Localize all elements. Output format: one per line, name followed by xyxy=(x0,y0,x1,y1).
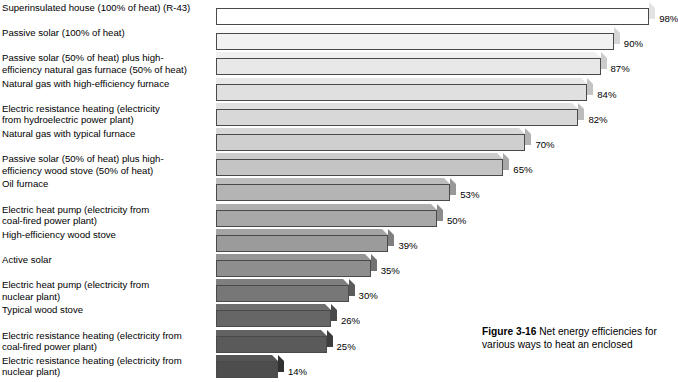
bar-front-face xyxy=(216,159,503,176)
bar-category-label: Electric heat pump (electricity from coa… xyxy=(2,204,214,227)
bar-side-face xyxy=(587,78,593,95)
bar-category-label: Superinsulated house (100% of heat) (R-4… xyxy=(2,2,214,13)
bar-value-label: 35% xyxy=(381,265,400,276)
bar-side-face xyxy=(578,103,584,120)
chart-row: High-efficiency wood stove39% xyxy=(0,229,672,255)
bar-value-label: 53% xyxy=(460,189,479,200)
bar-side-face xyxy=(450,178,456,195)
chart-row: Oil furnace53% xyxy=(0,178,672,204)
bar-front-face xyxy=(216,33,614,50)
bar-category-label: Typical wood stove xyxy=(2,304,214,315)
bar-front-face xyxy=(216,134,525,151)
bar-category-label: Passive solar (50% of heat) plus high- e… xyxy=(2,153,214,176)
bar-side-face xyxy=(327,330,333,347)
bar-3d xyxy=(216,27,620,53)
chart-row: Passive solar (50% of heat) plus high- e… xyxy=(0,153,672,179)
bar-front-face xyxy=(216,8,649,25)
chart-row: Electric heat pump (electricity from nuc… xyxy=(0,279,672,305)
bar-value-label: 98% xyxy=(659,13,678,24)
chart-row: Electric resistance heating (electricity… xyxy=(0,103,672,129)
bar-value-label: 50% xyxy=(447,215,466,226)
bar-front-face xyxy=(216,184,450,201)
bar-front-face xyxy=(216,109,578,126)
bar-3d xyxy=(216,304,337,330)
bar-front-face xyxy=(216,361,278,378)
bar-side-face xyxy=(649,2,655,19)
bar-side-face xyxy=(371,254,377,271)
bar-side-face xyxy=(349,279,355,296)
bar-3d xyxy=(216,330,333,356)
bar-category-label: Electric heat pump (electricity from nuc… xyxy=(2,279,214,302)
bar-value-label: 70% xyxy=(535,139,554,150)
bar-3d xyxy=(216,178,456,204)
bar-value-label: 30% xyxy=(359,290,378,301)
bar-3d xyxy=(216,78,593,104)
bar-category-label: High-efficiency wood stove xyxy=(2,229,214,240)
bar-front-face xyxy=(216,285,349,302)
chart-row: Natural gas with high-efficiency furnace… xyxy=(0,78,672,104)
bar-category-label: Passive solar (50% of heat) plus high- e… xyxy=(2,52,214,75)
bar-3d xyxy=(216,153,509,179)
bar-category-label: Natural gas with high-efficiency furnace xyxy=(2,78,214,89)
bar-front-face xyxy=(216,260,371,277)
bar-category-label: Electric resistance heating (electricity… xyxy=(2,103,214,126)
bar-value-label: 26% xyxy=(341,315,360,326)
chart-row: Electric resistance heating (electricity… xyxy=(0,355,672,381)
bar-side-face xyxy=(614,27,620,44)
bar-3d xyxy=(216,229,394,255)
bar-front-face xyxy=(216,235,388,252)
bar-category-label: Electric resistance heating (electricity… xyxy=(2,355,214,378)
bar-side-face xyxy=(388,229,394,246)
bar-3d xyxy=(216,355,284,381)
chart-row: Passive solar (50% of heat) plus high- e… xyxy=(0,52,672,78)
bar-side-face xyxy=(437,204,443,221)
bar-category-label: Natural gas with typical furnace xyxy=(2,128,214,139)
bar-side-face xyxy=(331,304,337,321)
bar-front-face xyxy=(216,310,331,327)
bar-3d xyxy=(216,279,355,305)
bar-3d xyxy=(216,128,531,154)
bar-front-face xyxy=(216,336,327,353)
chart-row: Active solar35% xyxy=(0,254,672,280)
bar-side-face xyxy=(278,355,284,372)
bar-value-label: 90% xyxy=(624,38,643,49)
bar-front-face xyxy=(216,84,587,101)
bar-front-face xyxy=(216,58,601,75)
bar-3d xyxy=(216,103,584,129)
chart-row: Electric heat pump (electricity from coa… xyxy=(0,204,672,230)
bar-value-label: 25% xyxy=(337,341,356,352)
figure-caption: Figure 3-16 Net energy efficiencies for … xyxy=(482,326,672,351)
bar-side-face xyxy=(525,128,531,145)
bar-3d xyxy=(216,204,443,230)
bar-value-label: 84% xyxy=(597,89,616,100)
bar-value-label: 82% xyxy=(588,114,607,125)
bar-front-face xyxy=(216,210,437,227)
bar-value-label: 39% xyxy=(398,240,417,251)
bar-value-label: 14% xyxy=(288,366,307,377)
bar-3d xyxy=(216,254,377,280)
bar-category-label: Oil furnace xyxy=(2,178,214,189)
bar-value-label: 87% xyxy=(611,63,630,74)
chart-row: Natural gas with typical furnace70% xyxy=(0,128,672,154)
chart-row: Superinsulated house (100% of heat) (R-4… xyxy=(0,2,672,28)
bar-side-face xyxy=(601,52,607,69)
bar-side-face xyxy=(503,153,509,170)
bar-3d xyxy=(216,2,655,28)
bar-value-label: 65% xyxy=(513,164,532,175)
chart-row: Passive solar (100% of heat)90% xyxy=(0,27,672,53)
bar-category-label: Electric resistance heating (electricity… xyxy=(2,330,214,353)
bar-category-label: Passive solar (100% of heat) xyxy=(2,27,214,38)
figure-caption-label: Figure 3-16 xyxy=(482,326,536,337)
bar-category-label: Active solar xyxy=(2,254,214,265)
bar-3d xyxy=(216,52,607,78)
